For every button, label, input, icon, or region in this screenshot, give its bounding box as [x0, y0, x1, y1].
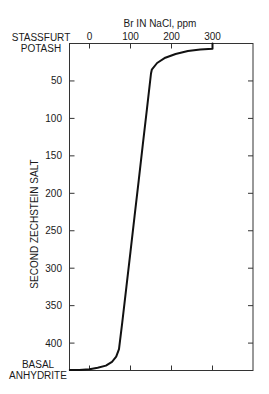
y-tick-labels: 50100150200250300350400 — [45, 75, 62, 348]
bromine-curve — [70, 44, 213, 371]
top-unit-label-line1: STASSFURT — [12, 32, 71, 43]
y-tick-label: 400 — [45, 338, 62, 349]
y-tick-label: 200 — [45, 188, 62, 199]
plot-frame — [70, 44, 254, 371]
y-axis-title: SECOND ZECHSTEIN SALT — [29, 159, 40, 288]
top-unit-label-line2: POTASH — [21, 43, 61, 54]
x-axis-title: Br IN NaCl, ppm — [124, 18, 197, 29]
x-tick-label: 0 — [87, 31, 93, 42]
y-tick-label: 250 — [45, 225, 62, 236]
y-tick-label: 300 — [45, 263, 62, 274]
y-tick-label: 350 — [45, 300, 62, 311]
tick-marks — [70, 44, 254, 371]
bottom-unit-label-line2: ANHYDRITE — [9, 370, 67, 381]
y-tick-label: 100 — [45, 113, 62, 124]
bromine-profile-chart: Br IN NaCl, ppm 0100200300 STASSFURT POT… — [0, 0, 269, 394]
x-tick-label: 200 — [163, 31, 180, 42]
bottom-unit-label-line1: BASAL — [22, 359, 55, 370]
x-tick-label: 300 — [204, 31, 221, 42]
x-tick-labels: 0100200300 — [87, 31, 222, 42]
y-tick-label: 50 — [51, 75, 63, 86]
y-tick-label: 150 — [45, 150, 62, 161]
x-tick-label: 100 — [122, 31, 139, 42]
